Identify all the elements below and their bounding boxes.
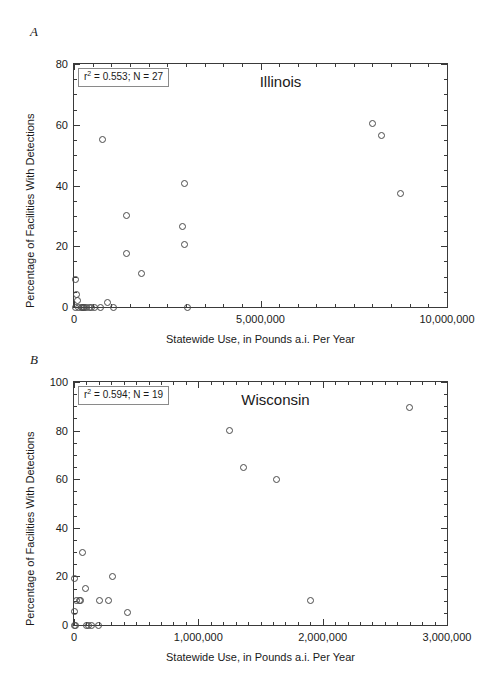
x-tick-minor-top-b — [173, 382, 174, 385]
x-tick-minor-top-b — [99, 382, 100, 385]
data-point-marker — [181, 241, 188, 248]
y-tick-minor-a — [74, 170, 77, 171]
x-tick-minor-top-a — [167, 64, 168, 67]
data-point-marker — [110, 304, 117, 311]
y-tick-label-b: 20 — [56, 570, 68, 582]
y-tick-minor-a — [74, 231, 77, 232]
y-tick-minor-right-b — [444, 406, 447, 407]
y-tick-minor-right-a — [444, 216, 447, 217]
data-point-marker — [369, 120, 376, 127]
x-tick-minor-b — [273, 622, 274, 625]
x-tick-label-a: 10,000,000 — [419, 313, 474, 325]
x-tick-minor-top-b — [273, 382, 274, 385]
x-tick-major-top-a — [74, 64, 75, 70]
x-tick-major-top-b — [323, 382, 324, 388]
x-tick-minor-a — [354, 304, 355, 307]
data-point-marker — [72, 622, 79, 629]
x-tick-minor-top-b — [248, 382, 249, 385]
y-tick-minor-a — [74, 216, 77, 217]
y-tick-minor-b — [74, 418, 77, 419]
y-tick-minor-a — [74, 201, 77, 202]
x-tick-major-top-b — [74, 382, 75, 388]
x-tick-minor-top-b — [223, 382, 224, 385]
y-tick-minor-right-a — [444, 110, 447, 111]
stats-text-illinois: r2 = 0.553; N = 27 — [84, 71, 163, 82]
data-point-marker — [105, 597, 112, 604]
x-tick-minor-top-a — [186, 64, 187, 67]
x-tick-minor-a — [130, 304, 131, 307]
data-point-marker — [184, 304, 191, 311]
x-tick-minor-top-b — [298, 382, 299, 385]
data-point-marker — [124, 609, 131, 616]
data-point-marker — [97, 304, 104, 311]
y-tick-major-right-a — [441, 307, 447, 308]
x-tick-minor-top-b — [310, 382, 311, 385]
y-tick-minor-b — [74, 540, 77, 541]
x-tick-minor-a — [279, 304, 280, 307]
y-tick-minor-right-a — [444, 170, 447, 171]
x-tick-minor-top-a — [316, 64, 317, 67]
y-tick-label-a: 20 — [56, 240, 68, 252]
data-point-marker — [138, 270, 145, 277]
y-tick-label-a: 80 — [56, 58, 68, 70]
x-tick-major-b — [323, 619, 324, 625]
y-tick-minor-b — [74, 491, 77, 492]
y-tick-minor-right-b — [444, 601, 447, 602]
data-point-marker — [226, 427, 233, 434]
x-tick-label-b: 3,000,000 — [423, 631, 472, 643]
x-tick-minor-b — [385, 622, 386, 625]
y-tick-minor-b — [74, 394, 77, 395]
data-point-marker — [88, 622, 95, 629]
x-tick-major-a — [447, 301, 448, 307]
x-tick-minor-top-a — [410, 64, 411, 67]
y-tick-minor-right-b — [444, 443, 447, 444]
x-tick-minor-b — [310, 622, 311, 625]
x-tick-minor-top-b — [86, 382, 87, 385]
y-tick-minor-right-b — [444, 589, 447, 590]
y-tick-label-b: 80 — [56, 425, 68, 437]
y-tick-major-right-b — [441, 528, 447, 529]
x-tick-minor-a — [167, 304, 168, 307]
x-tick-minor-top-a — [130, 64, 131, 67]
x-axis-title-a: Statewide Use, in Pounds a.i. Per Year — [73, 333, 448, 345]
x-tick-label-b: 1,000,000 — [174, 631, 223, 643]
data-point-marker — [273, 476, 280, 483]
x-tick-minor-top-b — [422, 382, 423, 385]
x-tick-minor-top-b — [111, 382, 112, 385]
data-point-marker — [181, 180, 188, 187]
y-tick-minor-b — [74, 589, 77, 590]
y-tick-minor-right-a — [444, 292, 447, 293]
x-tick-minor-b — [161, 622, 162, 625]
y-tick-label-b: 60 — [56, 473, 68, 485]
panel-b-letter: B — [30, 352, 38, 368]
y-tick-minor-right-b — [444, 418, 447, 419]
x-tick-minor-top-b — [335, 382, 336, 385]
data-point-marker — [123, 212, 130, 219]
x-tick-major-top-b — [447, 382, 448, 388]
x-tick-minor-a — [149, 304, 150, 307]
y-tick-major-b — [74, 479, 80, 480]
panel-a-letter: A — [30, 24, 38, 40]
y-tick-minor-right-b — [444, 455, 447, 456]
x-tick-minor-top-b — [236, 382, 237, 385]
x-tick-minor-b — [422, 622, 423, 625]
y-tick-minor-right-b — [444, 552, 447, 553]
y-tick-minor-right-b — [444, 394, 447, 395]
y-tick-major-a — [74, 246, 80, 247]
x-tick-minor-top-a — [298, 64, 299, 67]
x-tick-minor-top-b — [124, 382, 125, 385]
x-tick-minor-b — [248, 622, 249, 625]
y-tick-minor-right-b — [444, 564, 447, 565]
y-tick-label-a: 40 — [56, 180, 68, 192]
data-point-marker — [79, 549, 86, 556]
stats-annotation-wisconsin: r2 = 0.594; N = 19 — [78, 386, 169, 405]
data-point-marker — [179, 223, 186, 230]
plot-area-illinois: Illinois r2 = 0.553; N = 27 02040608005,… — [73, 63, 448, 308]
figure-scatter-plots: A Illinois r2 = 0.553; N = 27 0204060800… — [0, 0, 500, 673]
y-tick-minor-b — [74, 516, 77, 517]
y-tick-minor-right-a — [444, 140, 447, 141]
y-tick-minor-a — [74, 110, 77, 111]
y-tick-minor-a — [74, 261, 77, 262]
x-tick-minor-top-b — [186, 382, 187, 385]
data-point-marker — [307, 597, 314, 604]
